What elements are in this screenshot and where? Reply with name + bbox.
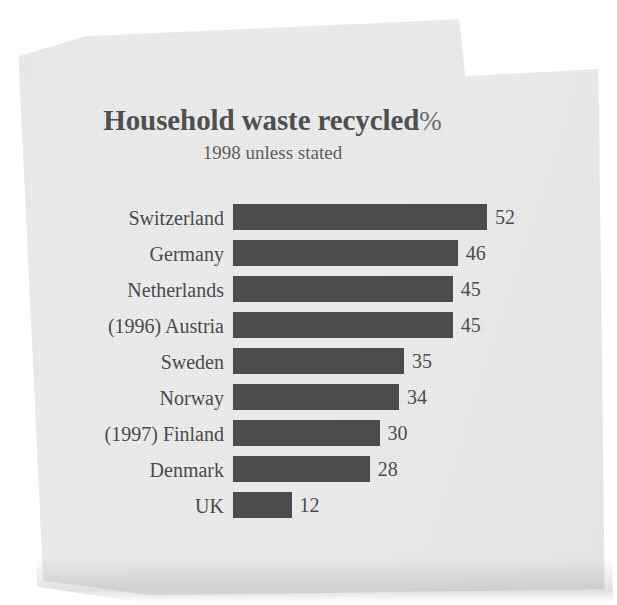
bar-row: Sweden35 <box>0 347 617 383</box>
bar-category-label: Norway <box>0 385 224 411</box>
bar-category-label: UK <box>0 493 224 519</box>
bar-value-label: 35 <box>412 348 432 374</box>
bar-row: Denmark28 <box>0 455 617 491</box>
bar-value-label: 45 <box>461 276 481 302</box>
bar-row: Germany46 <box>0 239 617 275</box>
bar-track: 45 <box>233 276 593 302</box>
bar-track: 52 <box>233 204 593 230</box>
chart-title-text: Household waste recycled <box>103 104 419 136</box>
bar-fill <box>233 204 487 230</box>
bar-category-label: (1996) Austria <box>0 313 224 339</box>
bar-track: 12 <box>233 492 593 518</box>
bar-fill <box>233 240 458 266</box>
bar-category-label: (1997) Finland <box>0 421 224 447</box>
bar-category-label: Netherlands <box>0 277 224 303</box>
chart-title-percent-symbol: % <box>419 106 441 136</box>
bar-row: Switzerland52 <box>0 203 617 239</box>
bar-row: UK12 <box>0 491 617 527</box>
bar-fill <box>233 456 370 482</box>
screenshot-root: Household waste recycled% 1998 unless st… <box>0 0 617 605</box>
bar-track: 45 <box>233 312 593 338</box>
bar-chart: Household waste recycled% 1998 unless st… <box>0 0 617 605</box>
chart-subtitle: 1998 unless stated <box>0 142 545 164</box>
bar-track: 35 <box>233 348 593 374</box>
bar-category-label: Sweden <box>0 349 224 375</box>
bar-category-label: Germany <box>0 241 224 267</box>
bar-fill <box>233 348 404 374</box>
bar-rows-container: Switzerland52Germany46Netherlands45(1996… <box>0 203 617 527</box>
bar-value-label: 52 <box>495 204 515 230</box>
bar-value-label: 34 <box>407 384 427 410</box>
bar-fill <box>233 384 399 410</box>
bar-fill <box>233 420 380 446</box>
bar-value-label: 45 <box>461 312 481 338</box>
bar-row: Netherlands45 <box>0 275 617 311</box>
bar-value-label: 30 <box>388 420 408 446</box>
bar-track: 28 <box>233 456 593 482</box>
bar-value-label: 46 <box>466 240 486 266</box>
bar-fill <box>233 492 292 518</box>
bar-fill <box>233 312 453 338</box>
bar-track: 34 <box>233 384 593 410</box>
chart-title: Household waste recycled% <box>0 104 545 137</box>
bar-row: Norway34 <box>0 383 617 419</box>
bar-category-label: Denmark <box>0 457 224 483</box>
bar-row: (1997) Finland30 <box>0 419 617 455</box>
bar-track: 46 <box>233 240 593 266</box>
bar-category-label: Switzerland <box>0 205 224 231</box>
bar-value-label: 12 <box>300 492 320 518</box>
bar-row: (1996) Austria45 <box>0 311 617 347</box>
bar-track: 30 <box>233 420 593 446</box>
bar-fill <box>233 276 453 302</box>
bar-value-label: 28 <box>378 456 398 482</box>
